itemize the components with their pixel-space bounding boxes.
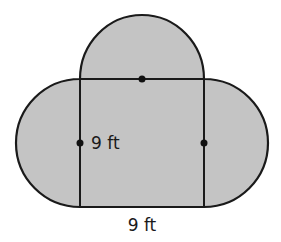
composite-figure: 9 ft 9 ft <box>0 0 281 242</box>
top-center-dot <box>139 76 146 83</box>
figure-fill <box>16 15 268 207</box>
left-side-label: 9 ft <box>91 133 120 153</box>
bottom-side-label: 9 ft <box>128 215 157 235</box>
right-center-dot <box>201 140 208 147</box>
left-center-dot <box>77 140 84 147</box>
